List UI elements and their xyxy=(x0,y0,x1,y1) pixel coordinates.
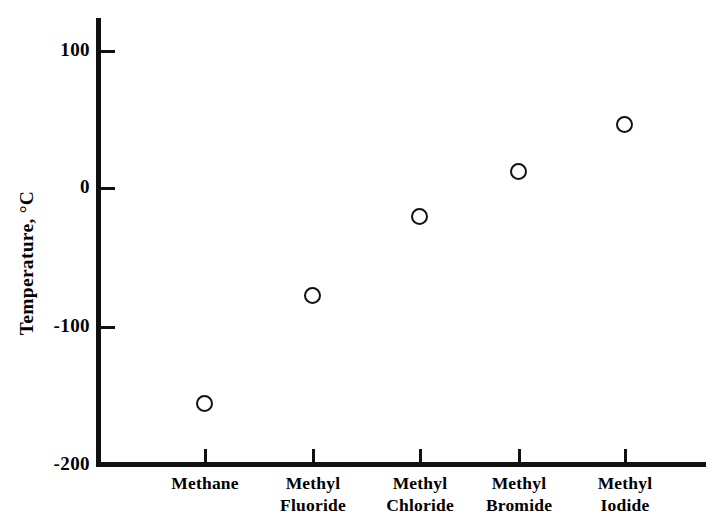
data-point-methane xyxy=(196,395,213,412)
x-axis-line xyxy=(96,462,706,467)
y-tick-label-0: 0 xyxy=(18,177,90,196)
x-tick-methyl-fluoride xyxy=(312,449,315,462)
data-point-methyl-bromide xyxy=(510,163,527,180)
chart-figure: Temperature, °C 100 0 -100 -200 Methane … xyxy=(0,0,718,527)
y-tick-label-100: 100 xyxy=(18,40,90,59)
y-tick-label-minus-200: -200 xyxy=(18,454,90,473)
y-axis-line xyxy=(96,18,101,467)
y-tick-label-minus-100: -100 xyxy=(18,316,90,335)
x-label-methyl-iodide: Methyl Iodide xyxy=(555,472,695,517)
x-tick-methyl-iodide xyxy=(624,449,627,462)
y-tick-0 xyxy=(101,187,115,190)
y-axis-title-text: Temperature, °C xyxy=(16,191,38,335)
data-point-methyl-iodide xyxy=(616,116,633,133)
x-tick-methyl-chloride xyxy=(419,449,422,462)
data-point-methyl-fluoride xyxy=(304,287,321,304)
y-tick-minus-100 xyxy=(101,326,115,329)
x-tick-methyl-bromide xyxy=(518,449,521,462)
data-point-methyl-chloride xyxy=(411,208,428,225)
y-tick-100 xyxy=(101,50,115,53)
x-tick-methane xyxy=(204,449,207,462)
